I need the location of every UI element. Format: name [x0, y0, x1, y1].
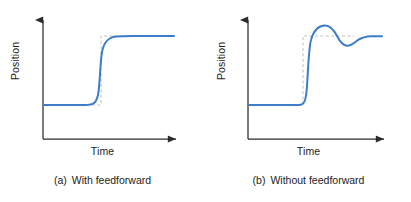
y-axis-label-a: Position — [9, 26, 21, 96]
figure-root: Position Time (a)With feedforward — [0, 0, 411, 202]
caption-tag-a: (a) — [54, 174, 67, 186]
plot-area-a: Position Time — [0, 0, 205, 160]
caption-text-a: With feedforward — [72, 174, 151, 186]
panel-with-feedforward: Position Time (a)With feedforward — [0, 0, 205, 202]
panel-without-feedforward: Position Time (b)Without feedforward — [206, 0, 411, 202]
caption-tag-b: (b) — [253, 174, 266, 186]
x-axis-label-b: Time — [206, 145, 411, 157]
plot-svg-b — [206, 0, 411, 160]
x-axis-label-a: Time — [0, 145, 205, 157]
plot-svg-a — [0, 0, 205, 160]
response-curve-b — [249, 25, 382, 105]
plot-area-b: Position Time — [206, 0, 411, 160]
caption-text-b: Without feedforward — [270, 174, 364, 186]
panel-caption-a: (a)With feedforward — [0, 174, 205, 186]
response-curve-a — [44, 36, 174, 105]
panel-caption-b: (b)Without feedforward — [206, 174, 411, 186]
y-axis-label-b: Position — [215, 26, 227, 96]
